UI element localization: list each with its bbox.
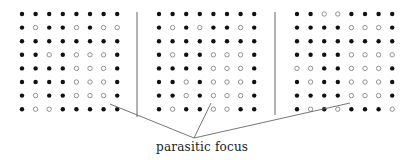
filled-dot bbox=[390, 12, 394, 16]
hollow-dot bbox=[376, 53, 380, 57]
filled-dot bbox=[198, 66, 202, 70]
filled-dot bbox=[20, 53, 24, 57]
filled-dot bbox=[170, 39, 174, 43]
hollow-dot bbox=[336, 12, 340, 16]
hollow-dot bbox=[74, 53, 78, 57]
filled-dot bbox=[308, 25, 312, 29]
hollow-dot bbox=[238, 80, 242, 84]
leader-line bbox=[110, 104, 194, 138]
hollow-dot bbox=[363, 93, 367, 97]
hollow-dot bbox=[170, 107, 174, 111]
hollow-dot bbox=[238, 66, 242, 70]
filled-dot bbox=[61, 25, 65, 29]
hollow-dot bbox=[225, 93, 229, 97]
filled-dot bbox=[170, 12, 174, 16]
filled-dot bbox=[349, 107, 353, 111]
filled-dot bbox=[184, 39, 188, 43]
filled-dot bbox=[349, 12, 353, 16]
filled-dot bbox=[295, 53, 299, 57]
hollow-dot bbox=[88, 93, 92, 97]
filled-dot bbox=[198, 80, 202, 84]
filled-dot bbox=[184, 66, 188, 70]
hollow-dot bbox=[101, 53, 105, 57]
filled-dot bbox=[33, 53, 37, 57]
hollow-dot bbox=[211, 53, 215, 57]
filled-dot bbox=[184, 12, 188, 16]
filled-dot bbox=[61, 53, 65, 57]
hollow-dot bbox=[47, 107, 51, 111]
hollow-dot bbox=[363, 66, 367, 70]
filled-dot bbox=[252, 66, 256, 70]
filled-dot bbox=[211, 12, 215, 16]
filled-dot bbox=[47, 25, 51, 29]
hollow-dot bbox=[198, 25, 202, 29]
hollow-dot bbox=[363, 53, 367, 57]
hollow-dot bbox=[33, 107, 37, 111]
filled-dot bbox=[184, 107, 188, 111]
filled-dot bbox=[61, 107, 65, 111]
filled-dot bbox=[115, 39, 119, 43]
filled-dot bbox=[88, 25, 92, 29]
hollow-dot bbox=[349, 80, 353, 84]
filled-dot bbox=[322, 66, 326, 70]
filled-dot bbox=[198, 53, 202, 57]
dot-panels bbox=[20, 12, 395, 112]
filled-dot bbox=[20, 66, 24, 70]
filled-dot bbox=[20, 12, 24, 16]
filled-dot bbox=[157, 25, 161, 29]
filled-dot bbox=[20, 107, 24, 111]
hollow-dot bbox=[101, 25, 105, 29]
hollow-dot bbox=[101, 80, 105, 84]
filled-dot bbox=[363, 107, 367, 111]
hollow-dot bbox=[211, 66, 215, 70]
filled-dot bbox=[157, 80, 161, 84]
filled-dot bbox=[211, 39, 215, 43]
filled-dot bbox=[322, 80, 326, 84]
filled-dot bbox=[295, 93, 299, 97]
hollow-dot bbox=[211, 80, 215, 84]
filled-dot bbox=[61, 93, 65, 97]
filled-dot bbox=[308, 53, 312, 57]
filled-dot bbox=[61, 66, 65, 70]
filled-dot bbox=[88, 107, 92, 111]
hollow-dot bbox=[322, 12, 326, 16]
hollow-dot bbox=[33, 25, 37, 29]
filled-dot bbox=[20, 25, 24, 29]
filled-dot bbox=[252, 53, 256, 57]
hollow-dot bbox=[336, 107, 340, 111]
filled-dot bbox=[211, 25, 215, 29]
hollow-dot bbox=[349, 66, 353, 70]
filled-dot bbox=[336, 66, 340, 70]
hollow-dot bbox=[376, 25, 380, 29]
filled-dot bbox=[88, 12, 92, 16]
filled-dot bbox=[115, 12, 119, 16]
filled-dot bbox=[336, 25, 340, 29]
filled-dot bbox=[308, 93, 312, 97]
hollow-dot bbox=[74, 93, 78, 97]
filled-dot bbox=[61, 12, 65, 16]
hollow-dot bbox=[238, 25, 242, 29]
filled-dot bbox=[390, 39, 394, 43]
hollow-dot bbox=[170, 53, 174, 57]
hollow-dot bbox=[390, 53, 394, 57]
filled-dot bbox=[376, 107, 380, 111]
hollow-dot bbox=[88, 66, 92, 70]
middle-panel bbox=[157, 12, 257, 112]
filled-dot bbox=[74, 12, 78, 16]
filled-dot bbox=[363, 12, 367, 16]
hollow-dot bbox=[88, 80, 92, 84]
hollow-dot bbox=[376, 80, 380, 84]
filled-dot bbox=[88, 39, 92, 43]
hollow-dot bbox=[184, 93, 188, 97]
hollow-dot bbox=[349, 93, 353, 97]
hollow-dot bbox=[225, 80, 229, 84]
hollow-dot bbox=[170, 25, 174, 29]
filled-dot bbox=[157, 12, 161, 16]
filled-dot bbox=[74, 39, 78, 43]
filled-dot bbox=[336, 53, 340, 57]
filled-dot bbox=[363, 39, 367, 43]
filled-dot bbox=[184, 25, 188, 29]
filled-dot bbox=[336, 39, 340, 43]
right-panel bbox=[295, 12, 395, 112]
filled-dot bbox=[322, 93, 326, 97]
